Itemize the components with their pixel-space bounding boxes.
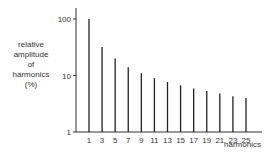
x-axis-label: harmonics: [224, 140, 261, 149]
x-tick-label: 19: [202, 136, 211, 145]
x-tick-label: 17: [189, 136, 198, 145]
y-tick-label: 100: [58, 15, 72, 24]
x-tick-label: 13: [163, 136, 172, 145]
y-tick-label: 1: [67, 128, 72, 137]
x-tick-label: 7: [126, 136, 131, 145]
x-tick-label: 9: [139, 136, 144, 145]
chart-plot: 110100135791113151719212325: [0, 0, 277, 162]
x-tick-label: 15: [176, 136, 185, 145]
x-tick-label: 1: [87, 136, 92, 145]
y-tick-label: 10: [62, 72, 71, 81]
x-tick-label: 5: [113, 136, 118, 145]
x-tick-label: 11: [150, 136, 159, 145]
x-tick-label: 3: [100, 136, 105, 145]
